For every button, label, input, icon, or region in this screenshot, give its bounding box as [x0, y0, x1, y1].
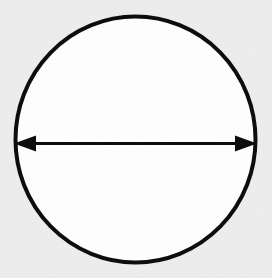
- circle-diameter-figure: [0, 0, 272, 278]
- circle-outline: [16, 17, 256, 263]
- diagram-canvas: [0, 0, 272, 278]
